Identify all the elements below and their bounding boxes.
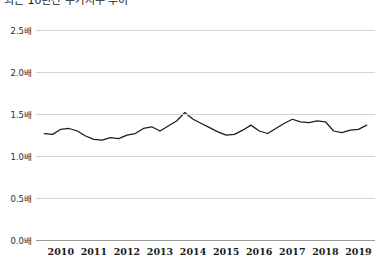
y-axis-tick-label: 1.0배 bbox=[10, 150, 32, 162]
plot-area: 0.0배0.5배1.0배1.5배2.0배2.5배 bbox=[36, 22, 375, 240]
series-svg bbox=[36, 22, 375, 240]
gridline-2.5배 bbox=[36, 30, 375, 31]
x-axis-tick-label-2014: 2014 bbox=[180, 246, 206, 257]
x-axis-tick-label-2013: 2013 bbox=[147, 246, 173, 257]
y-axis-tick-label: 1.5배 bbox=[10, 108, 32, 120]
series-line-path bbox=[44, 113, 366, 141]
gridline-0.0배 bbox=[36, 240, 375, 241]
y-axis-tick-label: 0.5배 bbox=[10, 192, 32, 204]
x-axis-labels: 2010201120122013201420152016201720182019 bbox=[36, 246, 375, 262]
gridline-1.0배 bbox=[36, 156, 375, 157]
x-axis-tick-label-2011: 2011 bbox=[81, 246, 107, 257]
chart-screenshot: 최근 10년간 주가지수 추이 0.0배0.5배1.0배1.5배2.0배2.5배… bbox=[0, 0, 387, 268]
y-axis-tick-label: 0.0배 bbox=[10, 234, 32, 246]
gridline-0.5배 bbox=[36, 198, 375, 199]
gridline-1.5배 bbox=[36, 114, 375, 115]
x-axis-tick-label-2015: 2015 bbox=[213, 246, 239, 257]
x-axis-tick-label-2012: 2012 bbox=[114, 246, 140, 257]
y-axis-tick-label: 2.0배 bbox=[10, 66, 32, 78]
x-axis-tick-label-2010: 2010 bbox=[48, 246, 74, 257]
y-axis-tick-label: 2.5배 bbox=[10, 24, 32, 36]
x-axis-tick-label-2016: 2016 bbox=[246, 246, 272, 257]
x-axis-tick-label-2019: 2019 bbox=[345, 246, 371, 257]
gridline-2.0배 bbox=[36, 72, 375, 73]
x-axis-tick-label-2018: 2018 bbox=[312, 246, 338, 257]
x-axis-tick-label-2017: 2017 bbox=[279, 246, 305, 257]
page-title: 최근 10년간 주가지수 추이 bbox=[4, 0, 129, 8]
